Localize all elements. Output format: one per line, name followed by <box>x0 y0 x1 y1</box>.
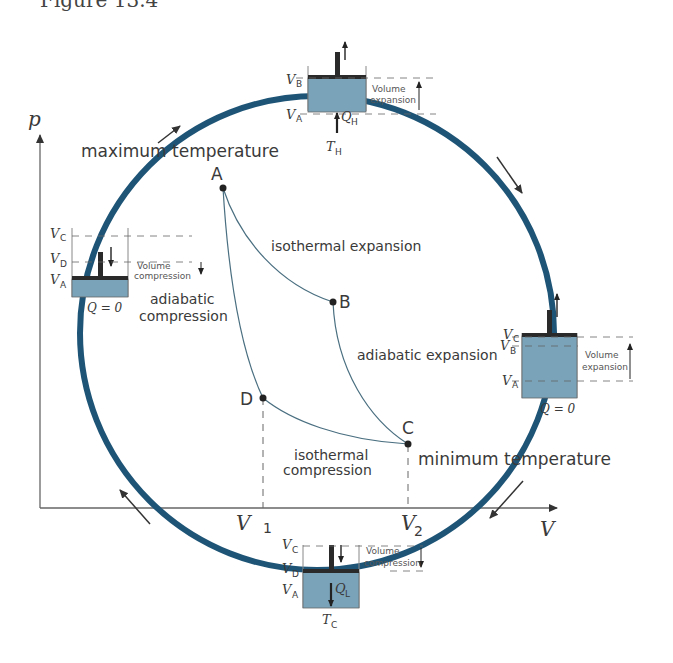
svg-text:Volume: Volume <box>585 350 619 360</box>
cycle-ring <box>80 96 554 570</box>
piston-rod <box>335 52 340 76</box>
point-a <box>220 185 227 192</box>
adiabatic-compression-label-1: adiabatic <box>150 291 214 307</box>
svg-text:Q = 0: Q = 0 <box>540 402 576 416</box>
gas-volume <box>522 336 577 398</box>
svg-text:H: H <box>351 117 358 127</box>
isothermal-expansion-label: isothermal expansion <box>271 238 421 254</box>
svg-text:L: L <box>345 589 350 599</box>
svg-text:Q = 0: Q = 0 <box>87 301 123 315</box>
svg-text:A: A <box>292 590 299 600</box>
pv-cycle-curves: A B C D <box>211 164 414 448</box>
point-b <box>330 299 337 306</box>
svg-text:Volume: Volume <box>372 84 406 94</box>
svg-text:B: B <box>296 79 302 89</box>
svg-text:Volume: Volume <box>366 546 400 556</box>
piston-rod <box>98 252 103 277</box>
gas-volume <box>308 78 366 112</box>
p-axis-label: p <box>28 107 41 131</box>
svg-text:A: A <box>512 380 519 390</box>
svg-text:compression: compression <box>134 271 191 281</box>
svg-text:H: H <box>335 147 342 157</box>
adiabatic-expansion-curve <box>333 302 408 444</box>
isothermal-compression-label-2: compression <box>283 462 372 478</box>
svg-text:B: B <box>510 346 516 356</box>
adiabatic-compression-curve <box>223 188 263 398</box>
v1-label: V <box>236 511 253 535</box>
isothermal-compression-curve <box>263 398 408 444</box>
point-b-label: B <box>339 292 351 312</box>
max-temperature-label: maximum temperature <box>81 141 279 161</box>
point-c-label: C <box>402 418 414 438</box>
point-d <box>260 395 267 402</box>
cylinder-bottom: V C V D V A Q L T C Volume compression <box>282 537 423 630</box>
point-d-label: D <box>240 389 253 409</box>
adiabatic-compression-label-2: compression <box>139 308 228 324</box>
svg-text:C: C <box>292 545 298 555</box>
carnot-cycle-diagram: p V V 1 V 2 A B C D isothermal expansion… <box>0 0 673 663</box>
point-c <box>405 441 412 448</box>
svg-text:Volume: Volume <box>137 261 171 271</box>
svg-text:C: C <box>331 620 337 630</box>
point-a-label: A <box>211 164 223 184</box>
cylinder-right: V C V B V A Q = 0 Volume expansion <box>500 294 633 416</box>
svg-text:expansion: expansion <box>582 362 628 372</box>
isothermal-compression-label-1: isothermal <box>294 447 368 463</box>
svg-text:A: A <box>296 114 303 124</box>
min-temperature-label: minimum temperature <box>418 449 611 469</box>
svg-text:D: D <box>292 569 299 579</box>
piston-rod <box>547 310 552 334</box>
svg-text:A: A <box>60 280 67 290</box>
adiabatic-expansion-label: adiabatic expansion <box>357 347 498 363</box>
v-axis-label: V <box>540 517 557 541</box>
svg-text:expansion: expansion <box>370 95 416 105</box>
svg-text:C: C <box>513 334 519 344</box>
cylinder-top: V B V A Q H T H Volume expansion <box>286 42 436 157</box>
svg-text:D: D <box>60 259 67 269</box>
v2-subscript: 2 <box>414 523 423 539</box>
svg-text:C: C <box>60 233 66 243</box>
svg-text:compression: compression <box>364 558 421 568</box>
piston-rod <box>329 545 334 570</box>
gas-volume <box>72 279 128 297</box>
v1-subscript: 1 <box>263 520 272 536</box>
